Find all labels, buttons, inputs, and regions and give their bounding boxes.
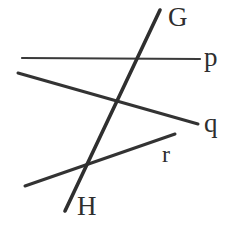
geometry-figure: G p q r H: [0, 0, 236, 236]
line-label-r: r: [162, 142, 170, 166]
line-label-p: p: [204, 44, 218, 71]
line-r-stroke: [25, 134, 175, 186]
line-p-stroke: [22, 58, 200, 59]
point-label-g: G: [168, 4, 188, 31]
point-label-h: H: [77, 193, 97, 220]
line-label-q: q: [204, 110, 218, 137]
figure-canvas: [0, 0, 236, 236]
